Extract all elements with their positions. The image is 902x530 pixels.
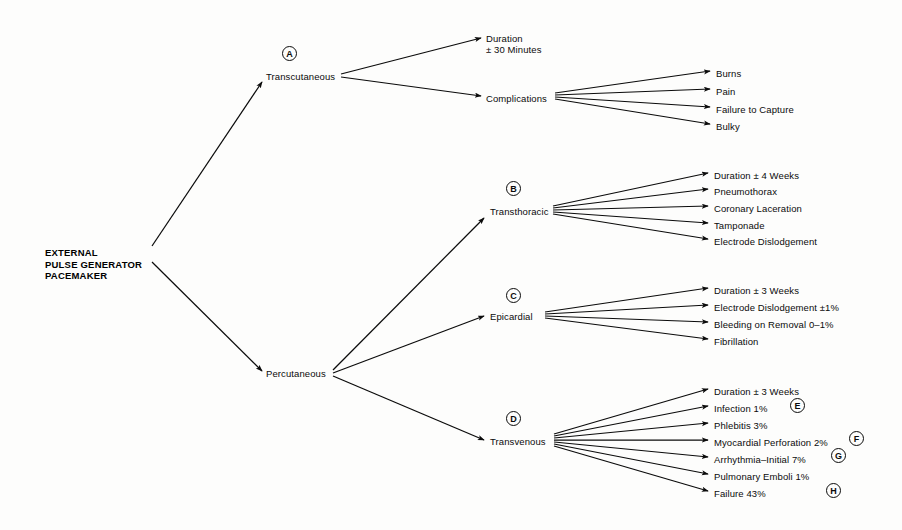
node-phlebitis: Phlebitis 3% xyxy=(714,420,767,431)
node-duration-tc-2: ± 30 Minutes xyxy=(486,44,542,55)
node-coronary-lac: Coronary Laceration xyxy=(714,203,802,214)
edge-transthoracic-to-coronary-lac xyxy=(553,206,708,210)
edge-root-to-transcutaneous xyxy=(152,82,262,246)
node-pulmonary-emboli: Pulmonary Emboli 1% xyxy=(714,471,809,482)
diagram-canvas: EXTERNALPULSE GENERATORPACEMAKER Transcu… xyxy=(0,0,902,530)
edge-transvenous-to-arrhythmia xyxy=(554,442,708,457)
node-arrhythmia: Arrhythmia–Initial 7% xyxy=(714,454,806,465)
node-duration-tv: Duration ± 3 Weeks xyxy=(714,386,799,397)
node-transthoracic: Transthoracic xyxy=(490,206,549,217)
root-line-2: PACEMAKER xyxy=(45,270,142,282)
edge-percutaneous-to-transvenous xyxy=(333,376,484,440)
node-failure-43: Failure 43% xyxy=(714,488,766,499)
edge-transvenous-to-pulmonary-emboli xyxy=(554,444,708,474)
node-fibrillation: Fibrillation xyxy=(714,336,759,347)
edge-epicardial-to-electrode-dis-ep xyxy=(545,305,708,314)
edge-transvenous-to-infection xyxy=(554,406,708,436)
node-duration-tt: Duration ± 4 Weeks xyxy=(714,170,799,181)
edge-percutaneous-to-transthoracic xyxy=(333,218,484,370)
edge-transvenous-to-duration-tv xyxy=(554,389,708,434)
node-percutaneous: Percutaneous xyxy=(266,368,326,379)
tag-b-badge: B xyxy=(506,181,521,196)
node-infection: Infection 1% xyxy=(714,403,767,414)
tag-h-badge: H xyxy=(826,483,841,498)
root-line-0: EXTERNAL xyxy=(45,247,142,259)
tag-g-badge: G xyxy=(831,448,846,463)
edge-transvenous-to-phlebitis xyxy=(554,423,708,438)
tag-f-badge: F xyxy=(849,431,864,446)
tag-a-badge: A xyxy=(282,46,297,61)
edge-complications-to-bulky xyxy=(555,99,710,124)
root-node-label: EXTERNALPULSE GENERATORPACEMAKER xyxy=(45,247,142,282)
node-myocardial-perf: Myocardial Perforation 2% xyxy=(714,437,828,448)
edge-transvenous-to-failure-43 xyxy=(554,446,708,491)
node-duration-ep: Duration ± 3 Weeks xyxy=(714,285,799,296)
node-bleeding: Bleeding on Removal 0–1% xyxy=(714,319,834,330)
edge-transcutaneous-to-complications xyxy=(341,77,481,96)
tag-d-badge: D xyxy=(506,411,521,426)
edges xyxy=(152,38,710,491)
edge-percutaneous-to-epicardial xyxy=(333,316,484,373)
node-tamponade: Tamponade xyxy=(714,220,765,231)
node-epicardial: Epicardial xyxy=(490,311,533,322)
node-pneumothorax: Pneumothorax xyxy=(714,186,777,197)
tag-e-badge: E xyxy=(790,398,805,413)
root-line-1: PULSE GENERATOR xyxy=(45,259,142,271)
edge-transthoracic-to-duration-tt xyxy=(553,173,708,206)
node-transvenous: Transvenous xyxy=(490,436,546,447)
edge-root-to-percutaneous xyxy=(152,262,262,371)
edge-transthoracic-to-pneumothorax xyxy=(553,189,708,208)
node-electrode-dis-ep: Electrode Dislodgement ±1% xyxy=(714,302,839,313)
node-duration-tc: Duration xyxy=(486,33,523,44)
node-electrode-dis-tt: Electrode Dislodgement xyxy=(714,236,817,247)
node-bulky: Bulky xyxy=(716,121,740,132)
node-burns: Burns xyxy=(716,68,741,79)
edge-complications-to-failure-capture xyxy=(555,97,710,107)
node-pain: Pain xyxy=(716,86,735,97)
edge-epicardial-to-duration-ep xyxy=(545,288,708,312)
tag-c-badge: C xyxy=(506,288,521,303)
node-complications: Complications xyxy=(486,93,547,104)
node-transcutaneous: Transcutaneous xyxy=(266,71,335,82)
node-failure-capture: Failure to Capture xyxy=(716,104,794,115)
edge-transcutaneous-to-duration-tc xyxy=(341,38,481,74)
